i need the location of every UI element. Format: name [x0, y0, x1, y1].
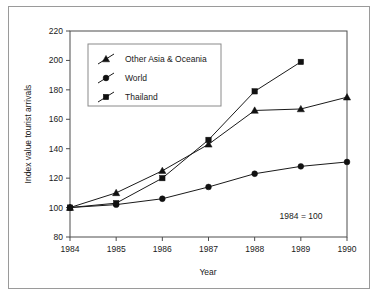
y-tick-label: 180 — [49, 85, 63, 95]
data-point-marker — [67, 205, 72, 210]
chart-legend[interactable]: Other Asia & OceaniaWorldThailand — [88, 44, 221, 106]
x-tick-label: 1988 — [245, 244, 264, 254]
line-chart: 80100120140160180200220 1984198519861987… — [9, 7, 371, 290]
legend-label: Thailand — [125, 92, 158, 102]
legend-marker-circle — [103, 75, 109, 81]
x-tick-label: 1989 — [291, 244, 310, 254]
y-tick-label: 200 — [49, 55, 63, 65]
x-tick-label: 1984 — [61, 244, 80, 254]
data-point-marker — [206, 137, 211, 142]
figure-frame: 80100120140160180200220 1984198519861987… — [8, 6, 370, 289]
y-tick-label: 220 — [49, 26, 63, 36]
x-tick-label: 1990 — [338, 244, 357, 254]
x-tick-label: 1985 — [107, 244, 126, 254]
y-tick-label: 100 — [49, 203, 63, 213]
x-axis-title: Year — [199, 267, 216, 277]
data-point-marker — [344, 159, 350, 165]
data-point-marker — [160, 175, 165, 180]
data-point-marker — [252, 89, 257, 94]
legend-marker-square — [103, 94, 108, 99]
data-point-marker — [252, 171, 258, 177]
y-tick-label: 140 — [49, 144, 63, 154]
data-point-marker — [298, 59, 303, 64]
chart-canvas: 80100120140160180200220 1984198519861987… — [9, 7, 371, 290]
y-tick-label: 80 — [54, 232, 64, 242]
x-tick-label: 1986 — [153, 244, 172, 254]
data-point-marker — [159, 196, 165, 202]
legend-label: World — [125, 73, 147, 83]
y-axis-title: Index value tourist arrivals — [23, 85, 33, 184]
y-tick-label: 160 — [49, 114, 63, 124]
data-point-marker — [206, 184, 212, 190]
base-year-annotation: 1984 = 100 — [280, 211, 323, 221]
y-tick-label: 120 — [49, 173, 63, 183]
data-point-marker — [113, 200, 118, 205]
x-tick-label: 1987 — [199, 244, 218, 254]
legend-label: Other Asia & Oceania — [125, 54, 207, 64]
data-point-marker — [298, 163, 304, 169]
x-axis: 1984198519861987198819891990 — [61, 237, 357, 254]
